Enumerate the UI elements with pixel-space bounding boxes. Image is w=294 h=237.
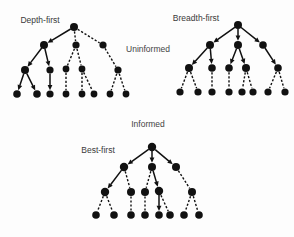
tree-node (99, 41, 106, 48)
tree-node (208, 64, 216, 72)
tree-node (63, 91, 70, 98)
search-strategies-figure: Depth-firstBreadth-firstBest-first Uninf… (0, 0, 294, 237)
tree-node (166, 211, 174, 219)
tree-node (234, 21, 242, 29)
tree-node (123, 91, 130, 98)
tree-node (185, 64, 193, 72)
tree-node (127, 188, 135, 196)
tree-node (274, 64, 282, 72)
tree-node (176, 88, 183, 95)
tree-node (148, 163, 156, 171)
tree-node (194, 88, 201, 95)
tree-node (225, 88, 232, 95)
tree-node (148, 143, 156, 151)
tree-node (21, 66, 29, 74)
tree-node (70, 23, 78, 31)
tree-node (249, 88, 256, 95)
tree-node (206, 41, 214, 49)
tree-node (79, 91, 86, 98)
tree-node (242, 64, 250, 72)
tree-node (195, 211, 203, 219)
tree-node (72, 41, 79, 48)
tree-node (155, 187, 163, 195)
tree-title-depth-first: Depth-first (20, 15, 60, 25)
tree-node (13, 90, 21, 98)
tree-node (63, 66, 70, 73)
tree-node (172, 163, 180, 171)
tree-node (46, 66, 53, 73)
tree-node (107, 91, 114, 98)
tree-node (114, 66, 121, 73)
tree-node (155, 211, 163, 219)
tree-node (264, 88, 271, 95)
tree-node (141, 211, 149, 219)
tree-node (91, 91, 98, 98)
tree-node (180, 211, 188, 219)
tree-node (127, 211, 135, 219)
tree-node (281, 88, 288, 95)
tree-node (234, 41, 242, 49)
tree-node (40, 41, 48, 49)
tree-node (141, 188, 149, 196)
tree-node (101, 188, 109, 196)
tree-node (120, 163, 128, 171)
tree-node (46, 90, 53, 97)
tree-title-best-first: Best-first (81, 145, 115, 155)
tree-node (225, 64, 233, 72)
tree-node (208, 88, 215, 95)
tree-node (238, 88, 245, 95)
tree-node (33, 90, 41, 98)
tree-title-breadth-first: Breadth-first (173, 13, 220, 23)
tree-node (188, 188, 196, 196)
tree-node (92, 211, 100, 219)
section-label-informed: Informed (131, 119, 165, 129)
tree-node (79, 66, 86, 73)
tree-node (259, 41, 267, 49)
tree-node (110, 211, 118, 219)
tree-edge-solid (210, 49, 211, 58)
section-label-uninformed: Uninformed (126, 44, 170, 54)
